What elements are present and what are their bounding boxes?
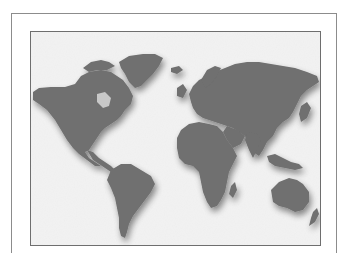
map-frame [30,31,321,246]
page [0,0,343,253]
world-map [31,32,320,245]
